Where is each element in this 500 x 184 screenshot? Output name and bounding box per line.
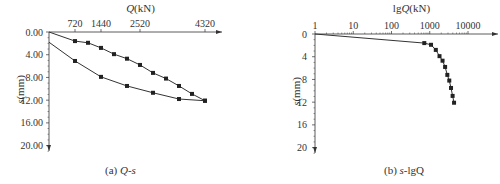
data-point-marker [73, 39, 77, 43]
y-tick-label: 16 [297, 119, 307, 130]
data-point-marker [445, 73, 449, 77]
figure: 7201440252043200.004.008.0012.0016.0020.… [0, 0, 500, 184]
data-point-marker [138, 63, 142, 67]
y-tick-label: 4.00 [26, 49, 44, 60]
x-axis-label: Q(kN) [126, 2, 155, 15]
caption-b-suffix: -lgQ [404, 164, 424, 176]
data-point-marker [429, 43, 433, 47]
x-tick-label: 720 [68, 18, 83, 29]
data-point-marker [449, 86, 453, 90]
data-point-marker [451, 94, 455, 98]
data-point-marker [441, 59, 445, 63]
data-point-marker [443, 65, 447, 69]
data-point-marker [177, 84, 181, 88]
data-point-marker [151, 91, 155, 95]
y-axis-label: s(mm) [14, 75, 27, 104]
data-point-marker [438, 54, 442, 58]
data-point-marker [99, 46, 103, 50]
caption-b-prefix: (b) [384, 164, 400, 176]
data-point-marker [203, 99, 207, 103]
caption-b: (b) s-lgQ [384, 164, 424, 176]
chart-s-lgq: 110100100010000048121620lgQ(kN)s(mm) [290, 2, 498, 153]
x-axis-arrow-icon [492, 32, 498, 36]
y-tick-label: 4 [302, 51, 307, 62]
caption-a-italic: Q-s [120, 164, 136, 176]
data-point-marker [190, 92, 194, 96]
y-tick-label: 0.00 [26, 27, 44, 38]
data-point-marker [73, 59, 77, 63]
x-tick-label: 1440 [91, 18, 111, 29]
data-point-marker [125, 84, 129, 88]
data-point-marker [177, 97, 181, 101]
data-point-marker [99, 75, 103, 79]
data-point-marker [112, 52, 116, 56]
caption-a: (a) Q-s [105, 164, 136, 176]
series-line-loading [49, 32, 205, 101]
series-line-unloading [49, 42, 205, 101]
y-tick-label: 20.00 [21, 140, 44, 151]
data-point-marker [422, 41, 426, 45]
y-tick-label: 20 [297, 142, 307, 153]
data-point-marker [447, 79, 451, 83]
series-line-loading [315, 34, 454, 103]
x-tick-label: 4320 [195, 18, 215, 29]
x-axis-label: lgQ(kN) [393, 2, 431, 15]
data-point-marker [452, 101, 456, 105]
y-tick-label: 16.00 [21, 117, 44, 128]
y-tick-label: 8.00 [26, 72, 44, 83]
x-axis-arrow-icon [216, 30, 222, 34]
data-point-marker [434, 48, 438, 52]
y-tick-label: 0 [302, 29, 307, 40]
x-tick-label: 10 [348, 20, 358, 31]
data-point-marker [125, 57, 129, 61]
data-point-marker [164, 77, 168, 81]
y-axis-label: s(mm) [290, 77, 303, 106]
x-tick-label: 100 [384, 20, 399, 31]
x-tick-label: 1000 [420, 20, 440, 31]
data-point-marker [151, 71, 155, 75]
caption-a-prefix: (a) [105, 164, 120, 176]
x-tick-label: 10000 [456, 20, 481, 31]
y-tick-label: 8 [302, 74, 307, 85]
x-tick-label: 1 [313, 20, 318, 31]
chart-q-s: 7201440252043200.004.008.0012.0016.0020.… [14, 2, 222, 151]
data-point-marker [86, 41, 90, 45]
x-tick-label: 2520 [130, 18, 150, 29]
